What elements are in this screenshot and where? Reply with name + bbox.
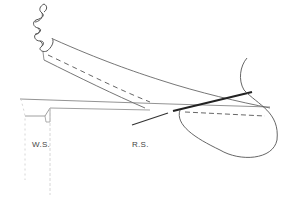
- diagram-canvas: [0, 0, 293, 199]
- tube-dashed-line: [48, 55, 150, 102]
- bubble-outline: [179, 58, 277, 157]
- bubble-dashed-line: [185, 112, 265, 116]
- label-ws: W.S.: [32, 140, 50, 149]
- tube-lower-edge: [44, 60, 145, 108]
- left-wall: [21, 99, 25, 180]
- probe-segment-left: [132, 113, 168, 125]
- tube-side-short: [43, 52, 44, 60]
- surface-line-lower: [25, 108, 150, 116]
- label-rs: R.S.: [132, 140, 149, 149]
- tube-upper-edge: [53, 39, 270, 108]
- twisted-cord: [34, 4, 54, 52]
